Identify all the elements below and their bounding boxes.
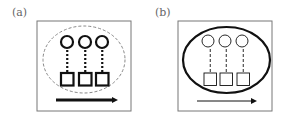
panel-b-circle-node [236, 35, 248, 47]
panel-b-circle-node [219, 35, 231, 47]
panel-b-square-node [204, 73, 217, 86]
panel-a-square-node [61, 73, 74, 86]
panel-a-circle-node [79, 36, 91, 48]
panel-b-arrow-head-icon [251, 98, 257, 104]
panel-a-square-node [96, 73, 109, 86]
panel-a-circle-node [61, 36, 73, 48]
panel-b-square-node [220, 73, 233, 86]
panel-a-circle-node [96, 36, 108, 48]
panel-b-square-node [237, 73, 250, 86]
diagram-canvas [0, 0, 285, 122]
panel-a-square-node [79, 73, 92, 86]
panel-a-frame [37, 21, 131, 111]
panel-b-frame [178, 21, 272, 111]
panel-a-arrow-head-icon [112, 97, 118, 103]
panel-b-circle-node [202, 35, 214, 47]
